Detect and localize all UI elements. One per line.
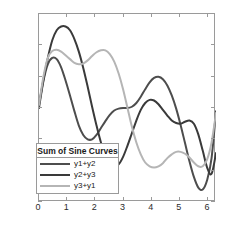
x-tick-mark [66,13,67,17]
legend-entries: y1+y2y2+y3y3+y1 [37,158,118,191]
legend-entry[interactable]: y3+y1 [37,180,118,191]
x-tick-label: 3 [113,203,133,212]
legend-line-swatch [40,174,70,176]
x-tick-label: 6 [197,203,217,212]
x-tick-mark [94,197,95,201]
x-tick-label: 0 [28,203,48,212]
y-tick-mark [38,107,42,108]
legend-title: Sum of Sine Curves [37,144,118,158]
x-tick-mark [207,13,208,17]
x-tick-mark [151,197,152,201]
x-tick-mark [123,13,124,17]
x-tick-mark [207,197,208,201]
y-tick-mark [211,107,215,108]
legend-entry-label: y2+y3 [74,171,96,179]
y-tick-mark [211,201,215,202]
legend-line-swatch [40,185,70,187]
y-tick-mark [211,76,215,77]
x-tick-mark [123,197,124,201]
x-tick-mark [38,13,39,17]
x-tick-mark [179,197,180,201]
y-tick-mark [38,138,42,139]
legend-line-swatch [40,163,70,165]
x-tick-label: 1 [56,203,76,212]
legend-entry-label: y1+y2 [74,160,96,168]
y-tick-mark [38,201,42,202]
x-tick-mark [151,13,152,17]
legend-entry-label: y3+y1 [74,182,96,190]
x-tick-mark [66,197,67,201]
legend-entry[interactable]: y2+y3 [37,169,118,180]
x-tick-mark [38,197,39,201]
chart-legend[interactable]: Sum of Sine Curves y1+y2y2+y3y3+y1 [36,143,119,194]
x-tick-mark [94,13,95,17]
figure-canvas: 1.510.50-0.5-1-1.5 0123456 Sum of Sine C… [0,0,229,230]
x-tick-label: 5 [169,203,189,212]
y-tick-mark [211,13,215,14]
legend-entry[interactable]: y1+y2 [37,158,118,169]
y-tick-mark [211,138,215,139]
y-tick-mark [211,44,215,45]
y-tick-mark [38,44,42,45]
x-tick-label: 2 [84,203,104,212]
y-tick-mark [211,170,215,171]
y-tick-mark [38,76,42,77]
x-tick-label: 4 [141,203,161,212]
x-tick-mark [179,13,180,17]
